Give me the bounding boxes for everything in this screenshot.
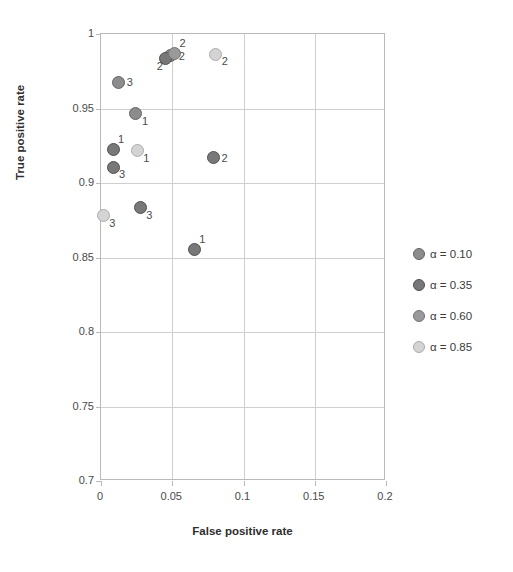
x-tick-label: 0.1 (213, 490, 273, 502)
x-tick-mark (172, 481, 173, 486)
data-point-label: 1 (118, 134, 124, 145)
data-point (129, 107, 142, 120)
y-tick-label: 0.7 (56, 475, 94, 486)
gridline-horizontal (101, 109, 384, 110)
legend-swatch-icon (413, 341, 425, 353)
y-tick-mark (96, 183, 101, 184)
legend-item[interactable]: α = 0.35 (413, 269, 513, 300)
x-tick-mark (244, 481, 245, 486)
legend-label: α = 0.35 (430, 279, 472, 291)
legend: α = 0.10α = 0.35α = 0.60α = 0.85 (413, 238, 513, 362)
data-point-label: 2 (157, 61, 163, 72)
scatter-chart-figure: 2312133122213 True positive rate False p… (0, 0, 513, 572)
x-tick-label: 0 (70, 490, 130, 502)
plot-area: 2312133122213 (100, 33, 385, 480)
x-tick-label: 0.2 (355, 490, 415, 502)
x-tick-mark (315, 481, 316, 486)
legend-swatch-icon (413, 248, 425, 260)
data-point-label: 3 (146, 210, 152, 221)
legend-label: α = 0.10 (430, 248, 472, 260)
data-point-label: 2 (222, 56, 228, 67)
y-axis-title: True positive rate (14, 85, 26, 180)
legend-swatch-icon (413, 279, 425, 291)
y-tick-label: 0.8 (56, 326, 94, 337)
legend-label: α = 0.60 (430, 310, 472, 322)
data-point-label: 1 (142, 116, 148, 127)
data-point (107, 161, 120, 174)
data-point-label: 3 (119, 169, 125, 180)
y-tick-mark (96, 332, 101, 333)
y-tick-mark (96, 34, 101, 35)
gridline-vertical (172, 34, 173, 479)
data-point-label: 2 (179, 38, 185, 49)
gridline-horizontal (101, 258, 384, 259)
x-tick-mark (386, 481, 387, 486)
y-tick-mark (96, 109, 101, 110)
legend-item[interactable]: α = 0.60 (413, 300, 513, 331)
x-tick-label: 0.15 (284, 490, 344, 502)
legend-label: α = 0.85 (430, 341, 472, 353)
gridline-vertical (315, 34, 316, 479)
x-tick-mark (101, 481, 102, 486)
data-point (97, 209, 110, 222)
x-tick-label: 0.05 (141, 490, 201, 502)
legend-item[interactable]: α = 0.10 (413, 238, 513, 269)
y-tick-mark (96, 481, 101, 482)
data-point-label: 3 (109, 218, 115, 229)
data-point-label: 3 (127, 77, 133, 88)
y-tick-mark (96, 258, 101, 259)
data-point (207, 151, 220, 164)
y-tick-label: 0.9 (56, 177, 94, 188)
data-point-label: 2 (222, 153, 228, 164)
gridline-horizontal (101, 183, 384, 184)
data-point-label: 1 (143, 153, 149, 164)
y-tick-mark (96, 407, 101, 408)
data-point (134, 201, 147, 214)
y-tick-label: 0.85 (56, 252, 94, 263)
data-point (209, 48, 222, 61)
y-tick-label: 0.95 (56, 103, 94, 114)
legend-swatch-icon (413, 310, 425, 322)
data-point (131, 144, 144, 157)
x-axis-title: False positive rate (100, 525, 385, 537)
gridline-horizontal (101, 407, 384, 408)
data-point (112, 76, 125, 89)
y-tick-label: 1 (56, 28, 94, 39)
y-tick-label: 0.75 (56, 401, 94, 412)
legend-item[interactable]: α = 0.85 (413, 331, 513, 362)
gridline-vertical (244, 34, 245, 479)
gridline-horizontal (101, 332, 384, 333)
data-point-label: 1 (199, 234, 205, 245)
